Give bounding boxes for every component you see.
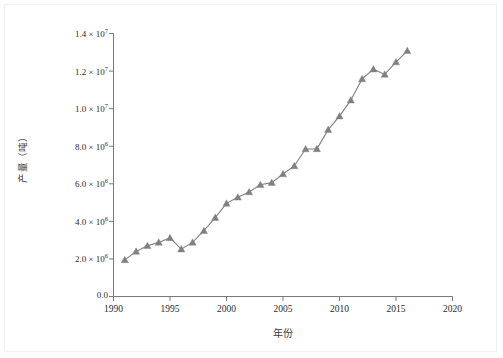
x-tick-label: 2010 — [320, 304, 360, 314]
x-tick-label: 1995 — [150, 304, 190, 314]
x-tick-label: 2015 — [376, 304, 416, 314]
x-tick-label: 2000 — [207, 304, 247, 314]
chart-figure: 产量（吨） 年份 0.02.0 × 1064.0 × 1066.0 × 1068… — [0, 0, 503, 358]
x-axis-tick-labels: 1990199520002005201020152020 — [0, 0, 503, 358]
x-tick-label: 2020 — [433, 304, 473, 314]
x-tick-label: 1990 — [94, 304, 134, 314]
x-tick-label: 2005 — [263, 304, 303, 314]
